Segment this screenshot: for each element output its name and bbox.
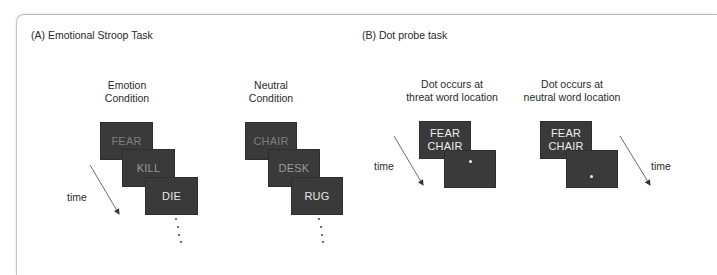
ellipsis-dot xyxy=(175,218,177,220)
neutral-condition-label-line2: Condition xyxy=(249,92,293,105)
threat-location-label-line2: threat word location xyxy=(406,91,498,104)
ellipsis-dot xyxy=(322,241,324,243)
probe-dot-icon xyxy=(590,175,593,178)
threat-word: FEAR xyxy=(551,127,581,140)
ellipsis-dot xyxy=(177,226,179,228)
ellipsis-dot xyxy=(178,234,180,236)
ellipsis-dot xyxy=(318,218,320,220)
panel-a-title: (A) Emotional Stroop Task xyxy=(31,29,153,41)
emotion-condition-label-line2: Condition xyxy=(105,92,149,105)
probe-card-threat xyxy=(444,150,496,188)
neutral-location-label: Dot occurs at neutral word location xyxy=(524,78,621,104)
neutral-location-label-line1: Dot occurs at xyxy=(524,78,621,91)
ellipsis-dot xyxy=(320,226,322,228)
neutral-location-label-line2: neutral word location xyxy=(524,91,621,104)
time-label-b-left: time xyxy=(374,160,394,172)
stroop-card-rug: RUG xyxy=(291,177,343,215)
threat-location-label-line1: Dot occurs at xyxy=(406,78,498,91)
probe-dot-icon xyxy=(469,160,472,163)
neutral-condition-label: Neutral Condition xyxy=(249,79,293,105)
threat-word: FEAR xyxy=(430,127,460,140)
emotion-condition-label-line1: Emotion xyxy=(105,79,149,92)
neutral-condition-label-line1: Neutral xyxy=(249,79,293,92)
panel-b-title: (B) Dot probe task xyxy=(362,29,447,41)
probe-card-neutral xyxy=(566,150,618,188)
ellipsis-dot xyxy=(180,241,182,243)
stroop-card-die: DIE xyxy=(145,177,198,215)
time-label-a: time xyxy=(67,191,87,203)
ellipsis-dot xyxy=(321,234,323,236)
threat-location-label: Dot occurs at threat word location xyxy=(406,78,498,104)
time-label-b-right: time xyxy=(651,160,671,172)
emotion-condition-label: Emotion Condition xyxy=(105,79,149,105)
